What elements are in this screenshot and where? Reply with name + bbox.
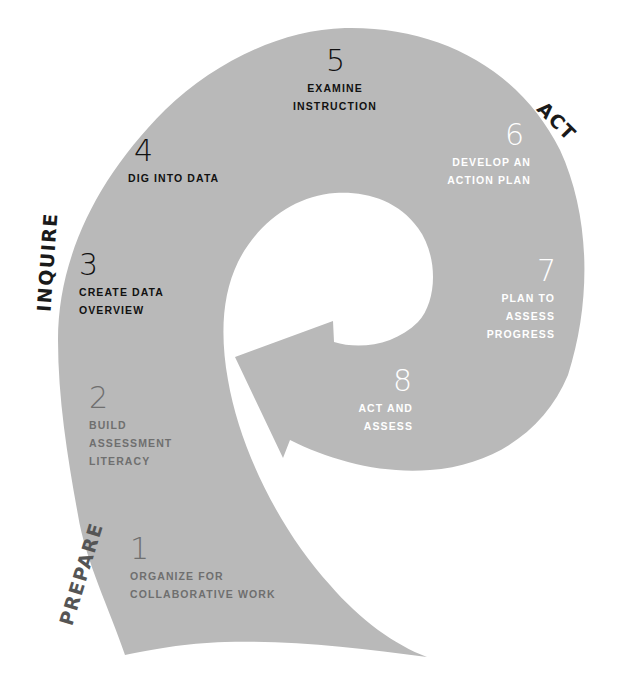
step-label-line: OVERVIEW [79,301,164,319]
step-label-line: ASSESSMENT [89,434,172,452]
step-number: 6 [420,120,523,150]
step-2: 2 BUILD ASSESSMENT LITERACY [89,383,172,470]
step-label-line: EXAMINE [290,79,380,97]
step-8: 8 ACT AND ASSESS [340,366,413,435]
step-number: 4 [134,136,219,166]
step-label-line: DIG INTO DATA [128,169,219,187]
step-label-line: ACT AND [340,399,413,417]
step-label-line: COLLABORATIVE WORK [130,585,276,603]
step-label-line: ASSESS [460,307,555,325]
step-7: 7 PLAN TO ASSESS PROGRESS [460,256,555,343]
step-label-line: DEVELOP AN [420,153,531,171]
step-label-line: CREATE DATA [79,283,164,301]
step-number: 5 [290,46,380,76]
step-label-line: BUILD [89,416,172,434]
step-5: 5 EXAMINE INSTRUCTION [290,46,380,115]
step-label-line: ACTION PLAN [420,171,531,189]
step-number: 1 [130,534,276,564]
step-1: 1 ORGANIZE FOR COLLABORATIVE WORK [130,534,276,603]
step-number: 7 [460,256,555,286]
step-number: 2 [89,383,172,413]
step-4: 4 DIG INTO DATA [128,136,219,187]
step-label-line: ASSESS [340,417,413,435]
step-label-line: ORGANIZE FOR [130,567,276,585]
step-number: 3 [79,250,164,280]
step-3: 3 CREATE DATA OVERVIEW [79,250,164,319]
step-label-line: PLAN TO [460,289,555,307]
step-label-line: PROGRESS [460,325,555,343]
step-number: 8 [340,366,411,396]
step-label-line: INSTRUCTION [290,97,380,115]
step-6: 6 DEVELOP AN ACTION PLAN [420,120,531,189]
step-label-line: LITERACY [89,452,172,470]
